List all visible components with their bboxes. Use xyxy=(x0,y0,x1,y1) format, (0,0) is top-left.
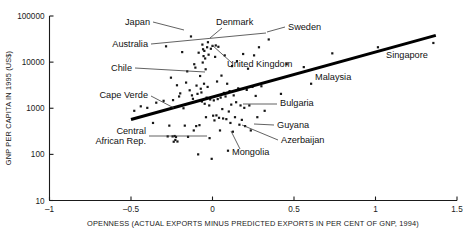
data-point xyxy=(203,50,205,52)
data-point xyxy=(155,102,157,104)
y-tick-label: 1000 xyxy=(26,104,45,113)
data-point xyxy=(225,118,227,120)
data-point xyxy=(205,116,207,118)
data-point xyxy=(238,124,240,126)
data-point xyxy=(264,110,266,112)
country-label: Sweden xyxy=(288,22,321,32)
data-point xyxy=(235,101,237,103)
country-label: Guyana xyxy=(277,120,310,130)
x-tick-label: 0.5 xyxy=(288,205,300,214)
data-point xyxy=(195,125,197,127)
data-point xyxy=(204,103,206,105)
data-point xyxy=(243,107,245,109)
data-point xyxy=(255,95,257,97)
data-point xyxy=(233,94,235,96)
data-point xyxy=(193,63,195,65)
data-point xyxy=(220,97,222,99)
data-point xyxy=(184,125,186,127)
x-axis-ticks: –1–0.500.511.5 xyxy=(45,197,463,214)
data-point xyxy=(221,108,223,110)
annotation-leader xyxy=(210,28,222,38)
y-axis-title: GNP PER CAPITA IN 1995 (US$) xyxy=(4,51,13,165)
data-point xyxy=(206,46,208,48)
data-point xyxy=(133,110,135,112)
data-point xyxy=(258,46,260,48)
data-point xyxy=(182,107,184,109)
data-point xyxy=(176,84,178,86)
data-point xyxy=(331,52,333,54)
data-point xyxy=(208,137,210,139)
data-point xyxy=(228,110,230,112)
axes-group xyxy=(49,16,457,201)
data-point xyxy=(198,52,200,54)
data-point xyxy=(185,81,187,83)
data-point xyxy=(172,99,174,101)
data-point xyxy=(165,45,167,47)
data-point xyxy=(176,140,178,142)
data-point xyxy=(213,119,215,121)
data-point xyxy=(207,86,209,88)
data-point xyxy=(192,98,194,100)
data-point xyxy=(215,114,217,116)
data-point xyxy=(181,51,183,53)
data-point xyxy=(205,68,207,70)
data-point xyxy=(227,150,229,152)
x-tick-label: 1 xyxy=(373,205,378,214)
x-tick-label: –1 xyxy=(45,205,55,214)
data-point xyxy=(217,98,219,100)
data-point xyxy=(211,158,213,160)
data-point xyxy=(377,46,379,48)
data-point xyxy=(229,122,231,124)
data-point xyxy=(280,93,282,95)
data-point xyxy=(242,53,244,55)
country-label: African Rep. xyxy=(95,136,146,146)
annotation-leader xyxy=(151,96,174,108)
y-tick-label: 10000 xyxy=(22,58,45,67)
country-label: Bulgaria xyxy=(280,98,315,108)
data-point xyxy=(140,105,142,107)
data-point xyxy=(194,67,196,69)
country-label: Japan xyxy=(125,17,150,27)
data-point xyxy=(202,61,204,63)
data-point xyxy=(217,46,219,48)
data-point xyxy=(303,66,305,68)
data-point xyxy=(190,35,192,37)
data-point xyxy=(210,48,212,50)
y-tick-label: 10 xyxy=(35,197,45,206)
data-point xyxy=(216,80,218,82)
chart-canvas: 10100100010000100000 –1–0.500.511.5 Japa… xyxy=(0,0,469,234)
data-point xyxy=(178,95,180,97)
scatter-chart-figure: 10100100010000100000 –1–0.500.511.5 Japa… xyxy=(0,0,469,234)
data-point xyxy=(215,44,217,46)
data-point xyxy=(213,99,215,101)
data-point xyxy=(207,54,209,56)
data-point xyxy=(234,116,236,118)
data-point xyxy=(222,117,224,119)
x-tick-label: 0 xyxy=(210,205,215,214)
data-point xyxy=(163,100,165,102)
data-point xyxy=(200,88,202,90)
data-point xyxy=(196,93,198,95)
data-point xyxy=(256,116,258,118)
annotation-leader xyxy=(254,124,274,125)
data-point xyxy=(202,55,204,57)
x-tick-label: –0.5 xyxy=(123,205,139,214)
data-point xyxy=(239,104,241,106)
data-point xyxy=(174,139,176,141)
y-axis-ticks: 10100100010000100000 xyxy=(17,12,53,206)
annotation-leader xyxy=(267,27,285,32)
country-label: Central xyxy=(116,126,146,136)
country-label: Chile xyxy=(111,63,132,73)
data-point xyxy=(253,54,255,56)
y-tick-label: 100000 xyxy=(17,12,45,21)
country-label: Cape Verde xyxy=(99,90,148,100)
data-point xyxy=(197,153,199,155)
country-label: United Kingdom xyxy=(227,59,293,69)
data-point xyxy=(207,41,209,43)
data-point xyxy=(170,77,172,79)
data-point xyxy=(199,75,201,77)
data-point xyxy=(152,122,154,124)
data-point xyxy=(250,129,252,131)
data-point xyxy=(193,129,195,131)
data-point xyxy=(146,107,148,109)
